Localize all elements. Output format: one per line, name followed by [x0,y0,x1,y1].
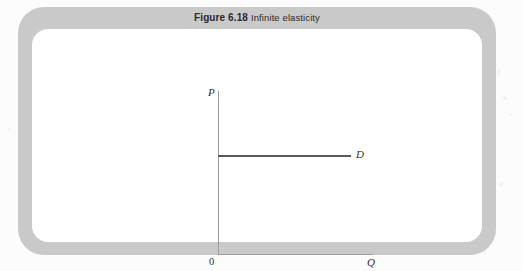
scan-speck [503,96,507,100]
quantity-axis [218,254,373,255]
figure-caption-number: Figure 6.18 [194,12,248,23]
price-axis-label: P [208,87,215,98]
figure-panel: P Q D 0 [32,29,482,242]
figure-card: Figure 6.18Infinite elasticity P Q D 0 [18,7,496,255]
scan-speck [8,128,11,131]
quantity-axis-label: Q [367,257,375,268]
elasticity-chart: P Q D 0 [32,29,482,242]
demand-curve [218,155,351,157]
price-axis [218,91,219,255]
figure-caption: Figure 6.18Infinite elasticity [18,12,496,23]
scan-speck [500,182,503,187]
scan-speck [509,113,512,116]
figure-caption-text: Infinite elasticity [251,12,320,23]
demand-curve-label: D [356,149,364,160]
origin-label: 0 [209,257,214,268]
scan-speck [497,69,500,77]
